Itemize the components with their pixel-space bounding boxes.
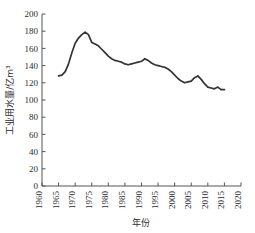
x-tick-label: 2005 bbox=[183, 191, 193, 210]
x-tick-label: 1985 bbox=[117, 191, 127, 210]
y-tick-label: 20 bbox=[29, 164, 39, 174]
y-tick-label: 120 bbox=[25, 78, 39, 88]
y-tick-label: 0 bbox=[34, 181, 39, 191]
y-tick-label: 100 bbox=[25, 95, 39, 105]
x-tick-label: 2020 bbox=[233, 191, 243, 210]
chart-container: 020406080100120140160180200 196019651970… bbox=[0, 0, 255, 233]
y-tick-label: 200 bbox=[25, 9, 39, 19]
y-tick-label: 180 bbox=[25, 26, 39, 36]
x-tick-label: 1995 bbox=[150, 191, 160, 210]
line-chart: 020406080100120140160180200 196019651970… bbox=[0, 0, 255, 233]
x-tick-label: 2000 bbox=[167, 191, 177, 210]
y-tick-label: 40 bbox=[29, 147, 39, 157]
y-tick-label: 160 bbox=[25, 44, 39, 54]
x-axis-title: 年份 bbox=[132, 217, 150, 228]
x-tick-label: 1970 bbox=[67, 191, 77, 210]
x-tick-label: 1960 bbox=[34, 191, 44, 210]
x-tick-label: 2015 bbox=[216, 191, 226, 210]
y-tick-label: 140 bbox=[25, 61, 39, 71]
y-tick-label: 80 bbox=[29, 112, 39, 122]
x-tick-label: 2010 bbox=[200, 191, 210, 210]
x-tick-label: 1980 bbox=[100, 191, 110, 210]
x-tick-label: 1975 bbox=[84, 191, 94, 210]
x-tick-label: 1965 bbox=[51, 191, 61, 210]
y-tick-label: 60 bbox=[29, 130, 39, 140]
x-tick-label: 1990 bbox=[134, 191, 144, 210]
y-axis-title: 工业用水量/亿m³ bbox=[4, 65, 15, 135]
